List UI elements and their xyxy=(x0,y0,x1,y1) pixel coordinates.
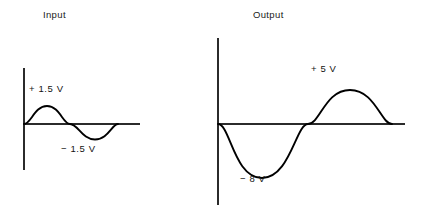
waveform-figure: Input + 1.5 V − 1.5 V Output xyxy=(0,0,426,212)
output-waveform-curve xyxy=(218,90,392,178)
output-plot xyxy=(200,0,426,212)
input-panel: Input + 1.5 V − 1.5 V xyxy=(0,0,200,212)
output-negative-peak-label: − 8 V xyxy=(240,173,265,184)
input-positive-peak-label: + 1.5 V xyxy=(29,83,64,94)
output-panel: Output + 5 V − 8 V xyxy=(200,0,426,212)
input-waveform-curve xyxy=(24,106,118,140)
input-plot xyxy=(0,0,200,212)
input-plot-svg xyxy=(0,0,200,212)
output-plot-svg xyxy=(200,0,426,212)
input-negative-peak-label: − 1.5 V xyxy=(61,143,96,154)
output-positive-peak-label: + 5 V xyxy=(311,63,336,74)
